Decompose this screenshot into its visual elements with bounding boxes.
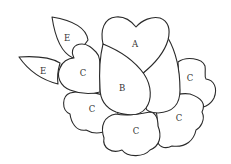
rose-pattern-diagram: E E C A B C C C C: [0, 0, 231, 164]
label-leaf-left: E: [40, 66, 46, 76]
label-petal-left-heart: C: [80, 68, 87, 78]
label-petal-right-top: C: [187, 73, 194, 83]
label-leaf-top: E: [64, 33, 70, 43]
petal-bottom-middle-piece: [103, 112, 160, 156]
label-petal-top-heart: A: [131, 39, 139, 49]
label-petal-bottom-right: C: [176, 113, 183, 123]
label-petal-bottom-middle: C: [133, 126, 140, 136]
label-bud-center: B: [119, 83, 125, 93]
label-petal-bottom-left: C: [89, 104, 96, 114]
